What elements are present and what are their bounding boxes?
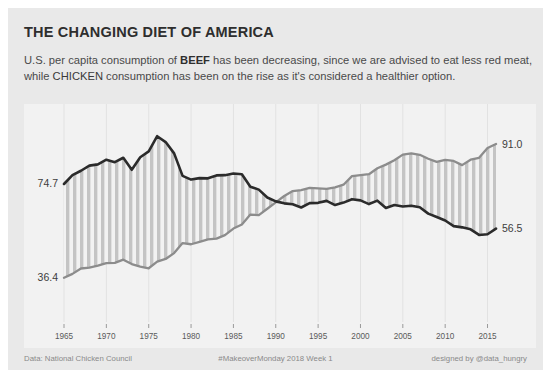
x-axis-tick-label: 2005 <box>394 332 413 341</box>
infographic-card: THE CHANGING DIET OF AMERICA U.S. per ca… <box>8 8 543 370</box>
x-axis-tick-label: 1985 <box>224 332 243 341</box>
x-axis-tick-label: 2010 <box>436 332 455 341</box>
x-axis-tick-label: 1965 <box>55 332 74 341</box>
footer-credit[interactable]: designed by @data_hungry <box>432 354 527 363</box>
line-chart-svg: 1965197019751980198519901995200020052010… <box>24 104 536 348</box>
endpoint-label-beef-left: 74.7 <box>38 177 59 189</box>
endpoint-label-beef-right: 56.5 <box>502 222 523 234</box>
endpoint-label-chicken-left: 36.4 <box>38 271 59 283</box>
chart-footer: Data: National Chicken Council #Makeover… <box>8 348 543 370</box>
chart-plot-area: 1965197019751980198519901995200020052010… <box>24 104 536 348</box>
subtitle-keyword-beef: BEEF <box>180 54 210 66</box>
subtitle-part-3: consumption has been on the rise as it's… <box>103 70 455 82</box>
x-axis-tick-label: 1980 <box>182 332 201 341</box>
endpoint-label-chicken-right: 91.0 <box>502 138 523 150</box>
subtitle-keyword-chicken: CHICKEN <box>53 70 103 82</box>
x-axis-tick-label: 1975 <box>140 332 159 341</box>
x-axis-tick-label: 2000 <box>351 332 370 341</box>
x-axis-tick-label: 1990 <box>267 332 286 341</box>
x-axis-tick-label: 2015 <box>478 332 497 341</box>
page-title: THE CHANGING DIET OF AMERICA <box>24 24 274 40</box>
subtitle-part-1: U.S. per capita consumption of <box>24 54 180 66</box>
x-axis-tick-label: 1995 <box>309 332 328 341</box>
x-axis-tick-label: 1970 <box>97 332 116 341</box>
subtitle-text: U.S. per capita consumption of BEEF has … <box>24 52 536 84</box>
